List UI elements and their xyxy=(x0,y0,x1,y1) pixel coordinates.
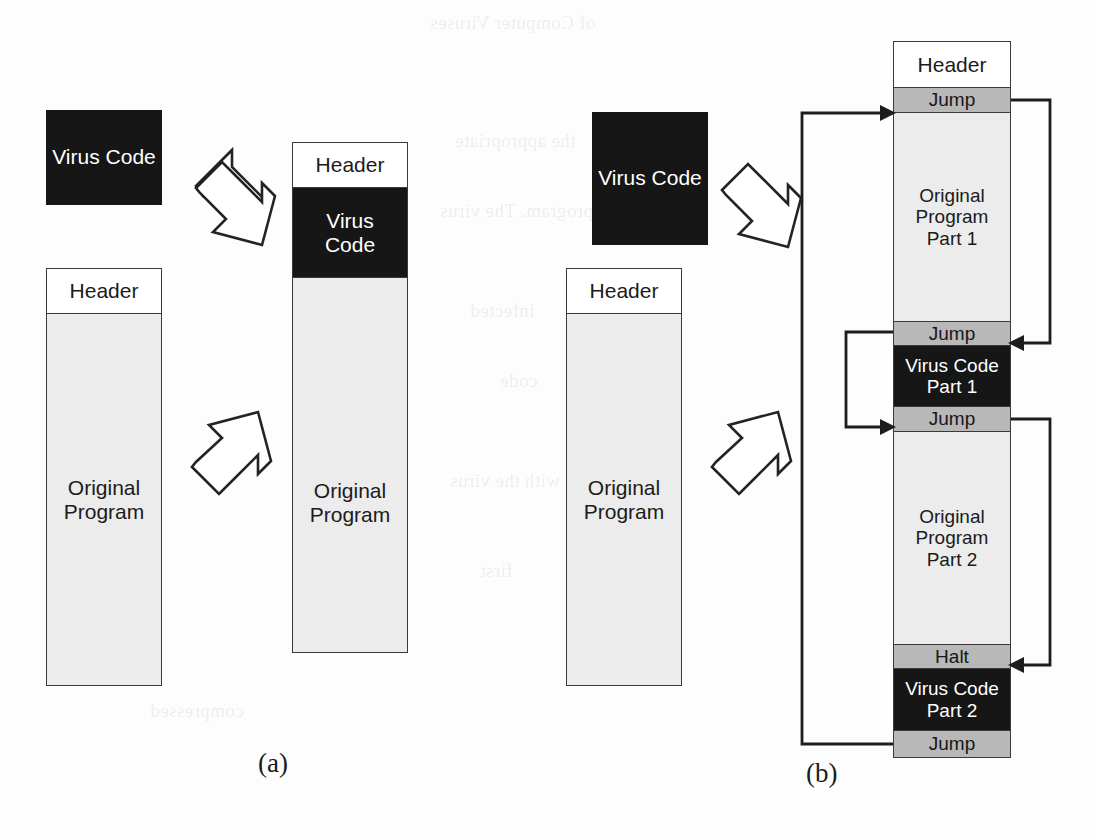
panel-b-segment-orig-1: Original Program Part 1 xyxy=(893,113,1011,322)
panel-b-segment-virus-2: Virus Code Part 2 xyxy=(893,669,1011,731)
segment-label: Jump xyxy=(929,733,975,754)
original-header-label: Header xyxy=(70,279,139,303)
panel-a-virus-code-chip: Virus Code xyxy=(46,110,162,205)
segment-line1: Original xyxy=(916,506,989,527)
original-body-line2: Program xyxy=(64,500,145,524)
segment-label: Jump xyxy=(929,89,975,110)
ghost-text-line: compressed xyxy=(150,700,244,722)
panel-b-segment-halt: Halt xyxy=(893,645,1011,669)
panel-a-infected-virus: Virus Code xyxy=(292,188,408,278)
ghost-text-line: first xyxy=(480,560,513,582)
infected-header-label: Header xyxy=(316,153,385,177)
segment-label: Jump xyxy=(929,323,975,344)
segment-line1: Virus Code xyxy=(905,355,999,376)
panel-a-infected-header: Header xyxy=(292,142,408,188)
flow-jump2-to-jump3 xyxy=(846,332,896,435)
virus-chip-line1: Virus xyxy=(598,166,645,189)
original-body-line1: Original xyxy=(584,476,665,500)
flow-jump1-to-jump2 xyxy=(1008,100,1050,351)
flow-bottom-jump-to-top-jump xyxy=(802,105,896,744)
segment-line2: Part 2 xyxy=(905,700,999,721)
infected-body-line1: Original xyxy=(310,479,391,503)
segment-line3: Part 1 xyxy=(916,228,989,249)
panel-b-original-body: Original Program xyxy=(566,314,682,686)
ghost-text-line: with the virus xyxy=(450,470,560,492)
segment-label: Header xyxy=(918,53,987,77)
panel-b-virus-insert-arrow-shape xyxy=(722,164,801,247)
panel-b-original-header: Header xyxy=(566,268,682,314)
infected-body-line2: Program xyxy=(310,503,391,527)
panel-b-segment-virus-1: Virus Code Part 1 xyxy=(893,346,1011,407)
flow-jump3-to-halt xyxy=(1008,419,1050,673)
panel-a-original-body: Original Program xyxy=(46,314,162,686)
infected-virus-line1: Virus xyxy=(325,209,375,233)
segment-line2: Program xyxy=(916,206,989,227)
segment-line1: Original xyxy=(916,185,989,206)
panel-a-program-insert-arrow-shape xyxy=(192,412,271,494)
original-body-line1: Original xyxy=(64,476,145,500)
original-body-line2: Program xyxy=(584,500,665,524)
panel-a-original-header: Header xyxy=(46,268,162,314)
ghost-text-line: infected xyxy=(470,300,534,322)
panel-a-virus-insert-arrow xyxy=(196,150,268,219)
panel-a-virus-insert-arrow-shape xyxy=(196,162,275,245)
panel-b-segment-orig-2: Original Program Part 2 xyxy=(893,432,1011,645)
infected-virus-line2: Code xyxy=(325,233,375,257)
segment-label: Jump xyxy=(929,408,975,429)
ghost-text-line: the appropriate xyxy=(455,130,575,152)
panel-a-infected-body: Original Program xyxy=(292,278,408,653)
ghost-text-line: code xyxy=(500,370,537,392)
panel-b-virus-code-chip: Virus Code xyxy=(592,112,708,245)
panel-b-segment-jump-2: Jump xyxy=(893,322,1011,346)
ghost-text-line: program. The virus xyxy=(440,200,593,222)
virus-chip-line1: Virus xyxy=(52,145,99,168)
ghost-text-line: of Computer Viruses xyxy=(430,12,595,34)
segment-line2: Program xyxy=(916,527,989,548)
segment-line3: Part 2 xyxy=(916,549,989,570)
panel-b-segment-header: Header xyxy=(893,41,1011,88)
original-header-label: Header xyxy=(590,279,659,303)
segment-line2: Part 1 xyxy=(905,376,999,397)
panel-b-program-insert-arrow-shape xyxy=(712,412,791,494)
segment-line1: Virus Code xyxy=(905,678,999,699)
segment-label: Halt xyxy=(935,646,969,667)
panel-b-segment-jump-4: Jump xyxy=(893,731,1011,758)
panel-a-caption: (a) xyxy=(258,748,288,779)
panel-b-segment-jump-3: Jump xyxy=(893,407,1011,432)
virus-chip-line2: Code xyxy=(652,166,702,189)
panel-b-caption: (b) xyxy=(806,758,837,789)
panel-b-segment-jump-1: Jump xyxy=(893,88,1011,113)
figure-canvas: of Computer Viruses the appropriate prog… xyxy=(0,0,1095,840)
virus-chip-line2: Code xyxy=(106,145,156,168)
